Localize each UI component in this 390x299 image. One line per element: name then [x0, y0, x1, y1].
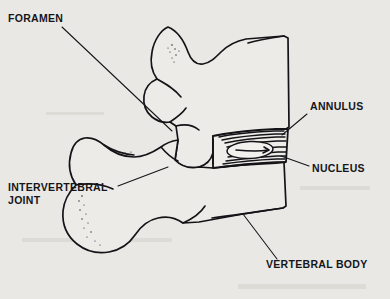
- vertebra-disc-illustration: FORAMEN ANNULUS NUCLEUS INTERVERTEBRAL J…: [0, 0, 390, 299]
- label-foramen: FORAMEN: [8, 12, 63, 24]
- label-annulus: ANNULUS: [310, 100, 363, 112]
- intervertebral-disc: [213, 129, 288, 168]
- label-vertebral-body: VERTEBRAL BODY: [266, 258, 367, 270]
- label-intervertebral-joint-line2: JOINT: [8, 194, 41, 206]
- label-intervertebral-joint-line1: INTERVERTEBRAL: [8, 181, 108, 193]
- label-nucleus: NUCLEUS: [312, 162, 365, 174]
